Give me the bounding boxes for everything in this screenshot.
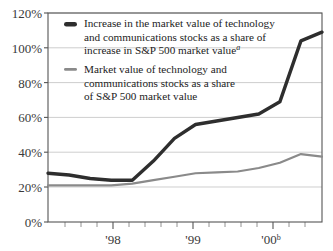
ytick-label-80: 80% (18, 76, 42, 91)
ytick-label-60: 60% (18, 110, 42, 125)
gray-line-swatch (64, 68, 77, 71)
chart-figure: 120% 100% 80% 60% 40% 20% 0% (0, 0, 333, 251)
xtick-label-1999: '99 (185, 232, 200, 247)
legend-entry-0-superscript: a (236, 43, 240, 52)
ytick-label-40: 40% (18, 145, 42, 160)
xtick-label-2000-superscript: b (277, 233, 281, 242)
legend-entry-1-line-1: communications stocks as a share (84, 77, 235, 89)
legend-entry-1-line-0: Market value of technology and (84, 63, 227, 75)
line-chart-svg: 120% 100% 80% 60% 40% 20% 0% (0, 0, 333, 251)
legend-entry-1-line-2: of S&P 500 market value (84, 90, 197, 102)
legend-entry-0-line-0: Increase in the market value of technolo… (84, 17, 275, 29)
xtick-label-1998: '98 (105, 232, 120, 247)
dark-line-swatch (64, 22, 77, 27)
ytick-label-0: 0% (25, 215, 43, 230)
legend-entry-0-line-2-text: increase in S&P 500 market value (84, 44, 236, 56)
legend-entry-0-line-1: and communications stocks as a share of (84, 31, 266, 43)
xtick-label-2000-text: '00 (261, 232, 276, 247)
ytick-label-100: 100% (12, 41, 43, 56)
ytick-label-20: 20% (18, 180, 42, 195)
legend-entry-0-line-2: increase in S&P 500 market valuea (84, 43, 240, 56)
ytick-label-120: 120% (12, 6, 43, 21)
